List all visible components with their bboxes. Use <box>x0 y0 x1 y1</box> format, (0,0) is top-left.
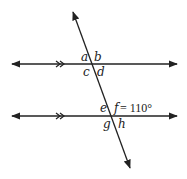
angle-label-c: c <box>83 65 90 79</box>
angle-label-d: d <box>97 65 105 79</box>
angle-label-b: b <box>94 50 102 64</box>
transversal-line <box>73 12 130 168</box>
angle-label-a: a <box>81 50 88 64</box>
angle-label-e: e <box>100 101 107 115</box>
angle-label-h: h <box>118 117 126 131</box>
angle-f-value: = 110° <box>120 101 152 115</box>
angle-label-g: g <box>103 117 111 131</box>
parallel-lines-transversal-diagram: a b c d e f = 110° g h <box>0 0 187 179</box>
